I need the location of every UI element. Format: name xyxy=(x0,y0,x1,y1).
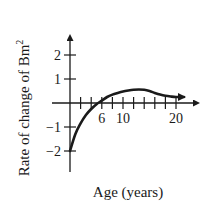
y-tick-label: −2 xyxy=(46,144,61,159)
y-tick-label: 2 xyxy=(54,48,61,63)
y-axis-label-main: Rate of change of Bm xyxy=(16,44,32,176)
y-axis-label-superscript: 2 xyxy=(14,40,25,45)
x-tick-labels: 61020 xyxy=(98,111,183,126)
y-tick-label: 1 xyxy=(54,72,61,87)
x-axis-label: Age (years) xyxy=(93,184,163,201)
x-tick-label: 10 xyxy=(116,111,130,126)
y-tick-label: −1 xyxy=(46,120,61,135)
x-tick-label: 6 xyxy=(98,111,105,126)
x-tick-label: 20 xyxy=(169,111,183,126)
chart: 61020 21−1−2 Age (years) Rate of change … xyxy=(0,0,204,217)
y-axis-label: Rate of change of Bm2 xyxy=(14,40,32,177)
